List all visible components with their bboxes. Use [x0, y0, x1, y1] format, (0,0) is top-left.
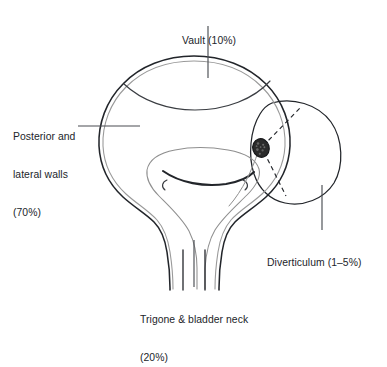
label-diverticulum-line1: Diverticulum (1–5%): [267, 257, 362, 270]
label-trigone-line1: Trigone & bladder neck: [140, 314, 248, 327]
label-vault-line1: Vault (10%): [182, 35, 236, 48]
label-diverticulum: Diverticulum (1–5%): [267, 232, 362, 295]
label-trigone-bladder-neck: Trigone & bladder neck (20%): [140, 289, 248, 367]
label-walls-line1: Posterior and: [13, 131, 75, 144]
label-vault: Vault (10%): [182, 10, 236, 73]
label-posterior-lateral-walls: Posterior and lateral walls (70%): [13, 106, 75, 245]
label-trigone-line2: (20%): [140, 352, 248, 365]
label-walls-line3: (70%): [13, 207, 75, 220]
label-walls-line2: lateral walls: [13, 169, 75, 182]
